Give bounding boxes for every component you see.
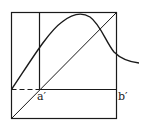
diagram-canvas (0, 0, 146, 127)
humped-curve (12, 14, 140, 89)
label-b-prime: b′ (118, 91, 128, 102)
label-a-prime: a′ (37, 91, 46, 102)
